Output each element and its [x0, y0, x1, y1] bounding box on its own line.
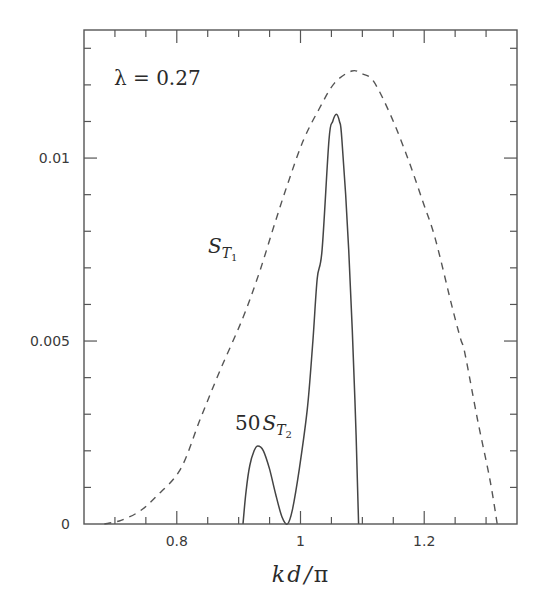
s2-main: S [262, 411, 276, 435]
xlabel-k: k [272, 562, 285, 587]
y-tick-label: 0 [61, 516, 70, 532]
xlabel-slash: / [302, 562, 314, 587]
s1-main: S [208, 234, 222, 258]
x-tick-label: 1 [296, 533, 305, 549]
lambda-annotation: λ = 0.27 [114, 66, 201, 90]
x-tick-label: 0.8 [166, 533, 188, 549]
s1-idx: 1 [231, 252, 237, 263]
plot-frame [84, 30, 517, 524]
axis-ticks [84, 30, 517, 524]
axis-tick-labels: 0.811.200.0050.01 [30, 150, 435, 549]
curves [104, 71, 497, 525]
s2-idx: 2 [286, 429, 292, 440]
curve-50-s-t2 [243, 114, 359, 524]
y-tick-label: 0.005 [30, 333, 70, 349]
chart: 0.811.200.0050.01 λ = 0.27 ST1 50ST2 kd/… [0, 0, 542, 609]
series-label-50-s-t2: 50ST2 [235, 411, 292, 440]
y-tick-label: 0.01 [39, 150, 70, 166]
x-axis-label: kd/π [272, 562, 328, 587]
series-label-s-t1: ST1 [208, 234, 237, 263]
xlabel-d: d [287, 562, 301, 587]
s2-coef: 50 [235, 411, 260, 435]
x-tick-label: 1.2 [413, 533, 435, 549]
xlabel-pi: π [314, 562, 328, 587]
